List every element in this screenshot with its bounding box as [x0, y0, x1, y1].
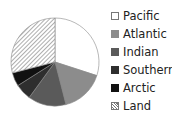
swatch-indian [111, 48, 119, 56]
legend-item-pacific: Pacific [111, 7, 172, 25]
legend-item-southern: Southern [111, 61, 172, 79]
legend-item-atlantic: Atlantic [111, 25, 172, 43]
swatch-land [111, 102, 119, 110]
swatch-arctic [111, 84, 119, 92]
legend-label: Land [123, 99, 151, 113]
swatch-southern [111, 66, 119, 74]
legend-label: Southern [123, 63, 172, 77]
legend-label: Atlantic [123, 27, 167, 41]
pie-chart [0, 0, 110, 115]
swatch-pacific [111, 12, 119, 20]
legend-item-indian: Indian [111, 43, 172, 61]
legend: Pacific Atlantic Indian Southern Arctic … [111, 7, 172, 115]
legend-label: Pacific [123, 9, 160, 23]
legend-label: Arctic [123, 81, 156, 95]
legend-label: Indian [123, 45, 159, 59]
swatch-atlantic [111, 30, 119, 38]
legend-item-arctic: Arctic [111, 79, 172, 97]
legend-item-land: Land [111, 97, 172, 115]
